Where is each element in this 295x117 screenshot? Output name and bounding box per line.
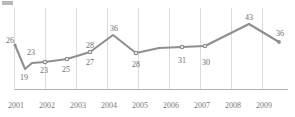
value-label: 36 [276,29,284,38]
value-label: 43 [245,13,253,22]
value-label: 23 [27,48,35,57]
x-tick-label-2005: 2005 [126,101,154,110]
value-label: 36 [110,24,118,33]
x-tick-label-2009: 2009 [250,101,278,110]
value-label: 28 [132,60,140,69]
x-tick-label-2006: 2006 [157,101,185,110]
x-tick-label-2008: 2008 [219,101,247,110]
data-series-line [15,24,279,69]
value-label: 31 [178,56,186,65]
value-label: 28 [86,41,94,50]
value-label: 23 [40,66,48,75]
value-label: 26 [6,36,14,45]
x-tick-label-2002: 2002 [33,101,61,110]
value-label: 19 [20,73,28,82]
value-label: 27 [86,58,94,67]
x-tick-label-2004: 2004 [95,101,123,110]
line-chart: 26 19 23 23 25 28 27 36 28 31 30 43 36 2… [0,0,295,117]
value-label: 25 [62,65,70,74]
value-label: 30 [202,58,210,67]
x-tick-label-2003: 2003 [64,101,92,110]
data-point-endcaps [13,40,281,47]
x-tick-label-2007: 2007 [188,101,216,110]
gridlines [15,8,263,89]
x-tick-label-2001: 2001 [2,101,30,110]
